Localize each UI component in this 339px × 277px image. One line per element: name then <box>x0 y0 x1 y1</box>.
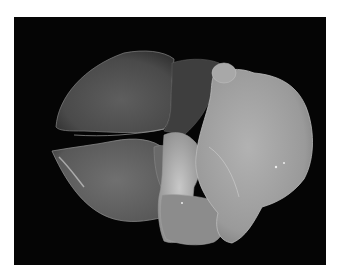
lower-left-lobe <box>52 139 169 221</box>
specimen-photo <box>14 17 326 265</box>
specimen-illustration <box>14 17 326 265</box>
top-knob <box>212 63 236 83</box>
upper-left-lobe <box>56 51 174 133</box>
